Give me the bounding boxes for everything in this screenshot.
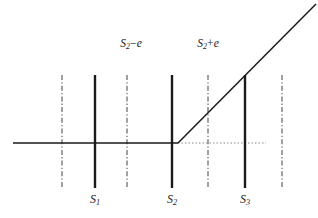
axis-label-s3-subscript: 3 [246,198,250,207]
label-s2-minus-e: S2−e [120,38,142,51]
label-s2-minus-e-epsilon: e [137,37,142,49]
label-s2-plus-e-epsilon: e [214,37,219,49]
axis-label-s1-subscript: 1 [96,198,100,207]
label-s2-plus-e-operator: + [207,37,214,49]
axis-label-s2-subscript: 2 [173,198,177,207]
figure-canvas [0,0,318,218]
figure-container: S2−e S2+e S1 S2 S3 [0,0,318,218]
axis-label-s1: S1 [90,193,100,207]
axis-label-s3: S3 [240,193,250,207]
label-s2-minus-e-operator: − [130,37,137,49]
ramp-line [178,4,316,143]
axis-label-s2: S2 [167,193,177,207]
solid-vertical-markers [95,75,245,188]
label-s2-plus-e: S2+e [197,38,219,51]
